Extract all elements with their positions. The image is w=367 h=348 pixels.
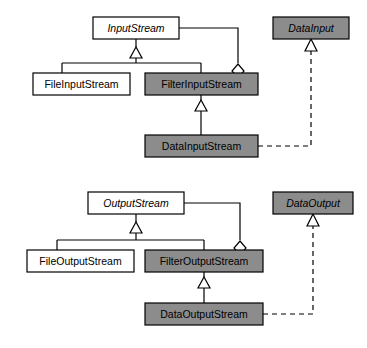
edge-generalization-filteroutputstream [198,272,210,303]
class-box-data-output[interactable]: DataOutput [273,192,353,214]
generalization-arrowhead-icon [130,47,142,58]
class-name-label: FilterOutputStream [160,255,249,267]
class-name-label: DataOutputStream [160,308,248,320]
uml-class-diagram: InputStream FileInputStream FilterInputS… [0,0,367,348]
output-group: OutputStream FileOutputStream FilterOutp… [27,192,353,325]
realization-arrowhead-icon [305,39,317,51]
class-box-file-input-stream[interactable]: FileInputStream [33,73,130,95]
edge-segment-dashed [258,51,311,146]
class-name-label: InputStream [107,22,164,34]
class-box-filter-output-stream[interactable]: FilterOutputStream [145,250,263,272]
class-name-label: OutputStream [103,197,169,209]
class-name-label: DataOutput [286,197,341,209]
class-box-output-stream[interactable]: OutputStream [88,192,184,214]
generalization-arrowhead-icon [130,222,142,233]
edge-aggregation-filteroutputstream [184,203,246,255]
generalization-arrowhead-icon [195,100,207,111]
generalization-arrowhead-icon [198,277,210,288]
diagram-canvas: InputStream FileInputStream FilterInputS… [0,0,367,348]
class-name-label: FileOutputStream [39,255,122,267]
class-box-data-output-stream[interactable]: DataOutputStream [145,303,263,325]
class-name-label: FileInputStream [44,78,118,90]
edge-realization-dataoutput [263,214,319,314]
class-name-label: FilterInputStream [161,78,242,90]
class-name-label: DataInputStream [162,140,242,152]
class-name-label: DataInput [288,22,335,34]
edge-segment [184,203,240,240]
edge-realization-datainput [258,39,317,146]
edge-segment [179,28,238,63]
edge-generalization-filterinputstream [195,95,207,135]
class-box-filter-input-stream[interactable]: FilterInputStream [145,73,258,95]
class-box-input-stream[interactable]: InputStream [93,17,179,39]
input-group: InputStream FileInputStream FilterInputS… [33,17,349,157]
class-box-file-output-stream[interactable]: FileOutputStream [27,250,134,272]
edge-aggregation-filterinputstream [179,28,244,78]
class-box-data-input-stream[interactable]: DataInputStream [145,135,258,157]
class-box-data-input[interactable]: DataInput [273,17,349,39]
edge-generalization-inputstream [62,39,201,73]
realization-arrowhead-icon [307,214,319,226]
edge-generalization-outputstream [57,214,204,250]
edge-segment-dashed [263,226,313,314]
